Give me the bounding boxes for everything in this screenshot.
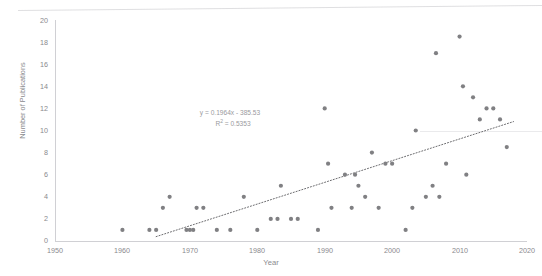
data-point	[484, 106, 488, 110]
data-point	[390, 162, 394, 166]
data-point	[161, 206, 165, 210]
data-point	[269, 217, 273, 221]
data-point	[464, 173, 468, 177]
data-point	[323, 106, 327, 110]
data-point	[228, 228, 232, 232]
data-point	[461, 84, 465, 88]
data-point	[404, 228, 408, 232]
data-point	[353, 173, 357, 177]
data-point	[471, 95, 475, 99]
data-point	[215, 228, 219, 232]
data-point	[356, 184, 360, 188]
data-point	[343, 173, 347, 177]
plot-area	[0, 0, 542, 276]
data-point	[457, 34, 461, 38]
data-point	[498, 117, 502, 121]
data-point	[444, 162, 448, 166]
data-point	[383, 162, 387, 166]
data-point	[431, 184, 435, 188]
data-point	[201, 206, 205, 210]
data-point	[329, 206, 333, 210]
data-point	[296, 217, 300, 221]
data-point	[363, 195, 367, 199]
data-point	[195, 206, 199, 210]
data-point	[434, 51, 438, 55]
data-point	[437, 195, 441, 199]
data-point	[255, 228, 259, 232]
data-point	[414, 128, 418, 132]
scatter-chart: 20 18 16 14 12 10 8 6 4 2 0 1950 1960 19…	[0, 0, 542, 276]
data-point	[370, 151, 374, 155]
data-point	[478, 117, 482, 121]
data-point	[491, 106, 495, 110]
data-point	[168, 195, 172, 199]
trendline	[156, 122, 513, 237]
data-point	[350, 206, 354, 210]
data-point	[410, 206, 414, 210]
data-points-group	[120, 34, 509, 232]
data-point	[120, 228, 124, 232]
data-point	[316, 228, 320, 232]
data-point	[326, 162, 330, 166]
data-point	[377, 206, 381, 210]
data-point	[424, 195, 428, 199]
data-point	[147, 228, 151, 232]
data-point	[154, 228, 158, 232]
data-point	[505, 145, 509, 149]
data-point	[191, 228, 195, 232]
data-point	[289, 217, 293, 221]
data-point	[275, 217, 279, 221]
data-point	[242, 195, 246, 199]
data-point	[279, 184, 283, 188]
